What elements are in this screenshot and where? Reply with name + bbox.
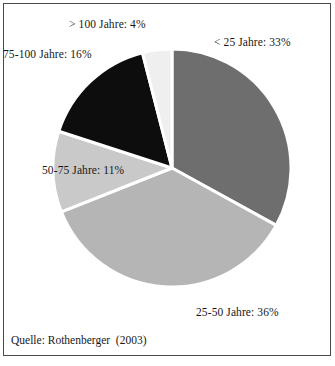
slice-label-25-50-jahre: 25-50 Jahre: 36% [196, 306, 279, 319]
plot-area: < 25 Jahre: 33% 25-50 Jahre: 36% 50-75 J… [0, 0, 335, 366]
pie-chart-figure: < 25 Jahre: 33% 25-50 Jahre: 36% 50-75 J… [0, 0, 335, 366]
source-caption: Quelle: Rothenberger (2003) [11, 334, 147, 346]
slice-label-lt-25-jahre: < 25 Jahre: 33% [214, 36, 291, 49]
slice-label-50-75-jahre: 50-75 Jahre: 11% [42, 164, 124, 177]
slice-label-75-100-jahre: 75-100 Jahre: 16% [3, 48, 92, 61]
slice-label-gt-100-jahre: > 100 Jahre: 4% [69, 18, 146, 31]
